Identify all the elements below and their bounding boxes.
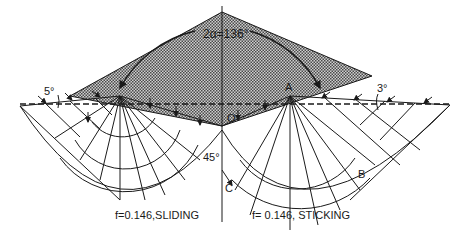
left-angle-arc (58, 95, 59, 108)
bottom-angle-label: 45° (203, 151, 220, 163)
wedge-angle-label: 2α=136° (203, 27, 249, 41)
label-A: A (285, 81, 293, 93)
caption-left: f=0.146,SLIDING (115, 209, 199, 221)
left-angle-label: 5° (44, 85, 55, 97)
slip-line-diagram: 2α=136° 5° 3° 45° O A B C f=0.146,SLIDIN… (0, 0, 457, 244)
label-origin: O (227, 112, 236, 124)
right-angle-arc (377, 94, 379, 110)
label-B: B (358, 168, 365, 180)
right-angle-label: 3° (377, 82, 388, 94)
caption-right: f= 0.146, STICKING (252, 209, 350, 221)
label-C: C (225, 182, 233, 194)
